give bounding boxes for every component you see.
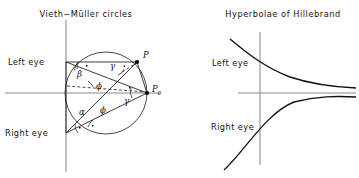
tick-mark-5	[92, 125, 94, 127]
tick-mark-1	[86, 65, 88, 67]
point-p0-dot	[145, 91, 149, 95]
right-panel-title: Hyperbolae of Hillebrand	[225, 9, 340, 19]
point-p-label: P	[142, 50, 149, 60]
tick-mark-3	[129, 87, 131, 89]
figure-background	[0, 0, 359, 178]
right-eye-label-right-panel: Right eye	[211, 122, 254, 132]
right-eye-label-left-panel: Right eye	[5, 128, 48, 138]
angle-label-gamma-lower: γ	[124, 96, 130, 106]
point-p0-subscript: 0	[158, 90, 162, 96]
left-eye-label-left-panel: Left eye	[8, 57, 45, 67]
angle-label-beta: β	[76, 69, 82, 79]
tick-mark-2	[124, 66, 126, 68]
angle-label-alpha: α	[79, 107, 85, 117]
left-panel-title: Vieth−Müller circles	[40, 9, 133, 19]
angle-label-phi-lower: ϕ	[100, 105, 106, 115]
angle-label-gamma-upper: γ	[110, 61, 116, 71]
angle-label-phi-upper: ϕ	[96, 81, 102, 91]
left-eye-label-right-panel: Left eye	[212, 58, 249, 68]
stereo-geometry-figure: Vieth−Müller circles	[0, 0, 359, 178]
tick-mark-4	[79, 127, 81, 129]
point-p-dot	[135, 60, 139, 64]
